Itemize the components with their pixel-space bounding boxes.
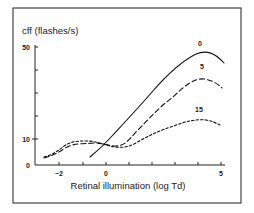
x-tick-label-0: 0 <box>104 170 108 177</box>
cff-chart: 50 10 0 −2 0 5 cff (flashes/s) Retinal i… <box>0 0 254 213</box>
y-axis-title: cff (flashes/s) <box>22 25 78 36</box>
y-tick-label-50: 50 <box>22 44 30 51</box>
curve-15-dotted <box>44 120 220 157</box>
y-tick-label-10: 10 <box>22 136 30 143</box>
x-tick-label-m2: −2 <box>55 170 63 177</box>
series-label-0: 0 <box>198 40 202 47</box>
x-axis-title: Retinal illumination (log Td) <box>71 180 186 191</box>
series-label-15: 15 <box>195 106 203 113</box>
y-tick-label-0: 0 <box>26 162 30 169</box>
curve-5-dashed <box>44 79 222 158</box>
figure-frame <box>13 8 241 203</box>
x-tick-label-5: 5 <box>219 170 223 177</box>
series-label-5: 5 <box>200 63 204 70</box>
